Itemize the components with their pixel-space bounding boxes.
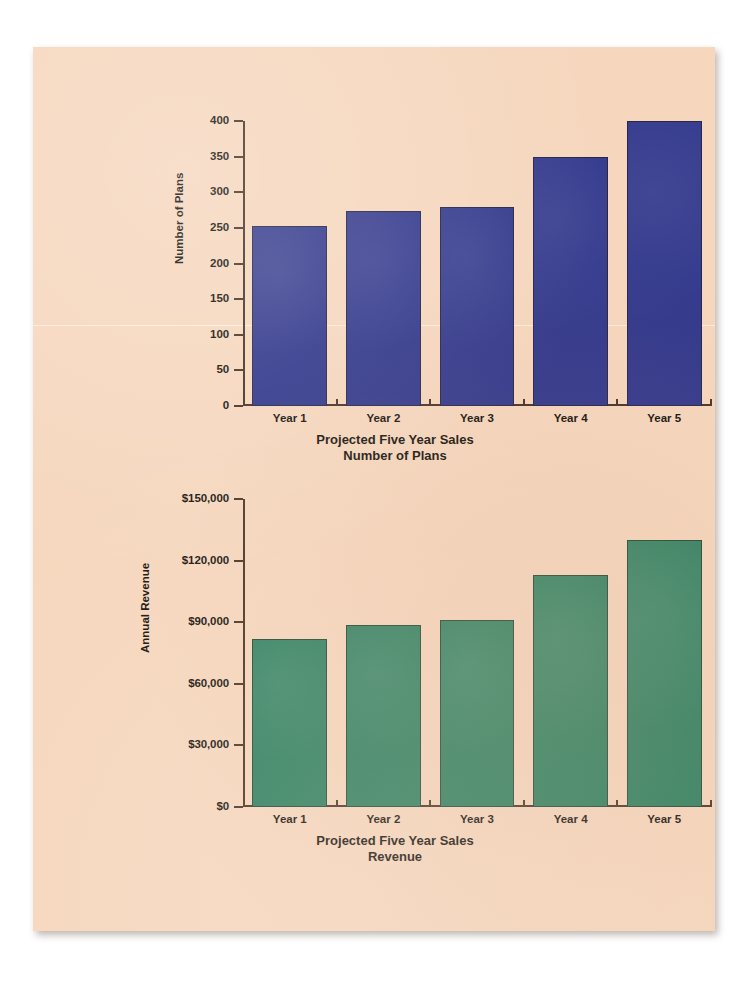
x-axis-tick xyxy=(336,399,338,406)
y-axis-tick-label: 250 xyxy=(189,221,229,233)
y-axis-tick xyxy=(234,405,243,407)
chart-annual-revenue: Annual Revenue $0$30,000$60,000$90,000$1… xyxy=(95,487,695,915)
y-axis-tick-label: 300 xyxy=(189,185,229,197)
y-axis-tick-label: $120,000 xyxy=(151,554,229,566)
y-axis-tick-label: $60,000 xyxy=(151,677,229,689)
x-axis-category-label: Year 4 xyxy=(524,813,618,825)
x-axis-tick xyxy=(616,399,618,406)
screenshot-root: Number of Plans 050100150200250300350400… xyxy=(0,0,753,983)
plot-area-number-of-plans: 050100150200250300350400Year 1Year 2Year… xyxy=(243,121,711,406)
y-axis-tick xyxy=(234,806,243,808)
x-axis-tick xyxy=(429,399,431,406)
x-axis-category-label: Year 3 xyxy=(430,813,524,825)
x-axis-tick xyxy=(616,800,618,807)
y-axis-tick xyxy=(234,498,243,500)
y-axis-tick xyxy=(234,120,243,122)
y-axis-tick-label: 400 xyxy=(189,114,229,126)
bar-year-1 xyxy=(252,226,327,406)
y-axis-line xyxy=(243,499,245,807)
x-axis-category-label: Year 5 xyxy=(617,412,711,424)
x-axis-tick xyxy=(710,800,712,807)
x-axis-category-label: Year 1 xyxy=(243,813,337,825)
bar-year-5 xyxy=(627,121,702,406)
bar-year-3 xyxy=(440,207,515,407)
y-axis-tick xyxy=(234,191,243,193)
bar-year-1 xyxy=(252,639,327,807)
y-axis-tick-label: 350 xyxy=(189,150,229,162)
x-axis-tick xyxy=(336,800,338,807)
y-axis-line xyxy=(243,121,245,406)
y-axis-tick-label: $150,000 xyxy=(151,492,229,504)
x-axis-category-label: Year 3 xyxy=(430,412,524,424)
chart-title-line-1: Projected Five Year Sales xyxy=(95,432,695,448)
x-axis-category-label: Year 4 xyxy=(524,412,618,424)
y-axis-tick-label: 200 xyxy=(189,257,229,269)
chart-title-line-1: Projected Five Year Sales xyxy=(95,833,695,849)
x-axis-category-label: Year 1 xyxy=(243,412,337,424)
y-axis-tick-label: $30,000 xyxy=(151,738,229,750)
y-axis-tick xyxy=(234,744,243,746)
y-axis-tick xyxy=(234,227,243,229)
bar-year-5 xyxy=(627,540,702,807)
y-axis-tick xyxy=(234,369,243,371)
bar-year-4 xyxy=(533,575,608,807)
y-axis-tick-label: 0 xyxy=(189,399,229,411)
chart-title-line-2: Revenue xyxy=(95,849,695,865)
y-axis-tick-label: 100 xyxy=(189,328,229,340)
y-axis-tick xyxy=(234,334,243,336)
scanned-document-page: Number of Plans 050100150200250300350400… xyxy=(33,47,715,931)
y-axis-tick-label: 50 xyxy=(189,363,229,375)
y-axis-tick-label: $0 xyxy=(151,800,229,812)
y-axis-tick xyxy=(234,263,243,265)
y-axis-tick-label: 150 xyxy=(189,292,229,304)
y-axis-tick xyxy=(234,621,243,623)
x-axis-category-label: Year 2 xyxy=(337,412,431,424)
y-axis-tick xyxy=(234,298,243,300)
bar-year-2 xyxy=(346,211,421,406)
y-axis-tick xyxy=(234,156,243,158)
y-axis-tick-label: $90,000 xyxy=(151,615,229,627)
bar-year-2 xyxy=(346,625,421,807)
y-axis-tick xyxy=(234,560,243,562)
bar-year-3 xyxy=(440,620,515,807)
bar-year-4 xyxy=(533,157,608,406)
x-axis-category-label: Year 2 xyxy=(337,813,431,825)
chart-number-of-plans: Number of Plans 050100150200250300350400… xyxy=(95,105,695,517)
chart-title-line-2: Number of Plans xyxy=(95,448,695,464)
plot-area-annual-revenue: $0$30,000$60,000$90,000$120,000$150,000Y… xyxy=(243,499,711,807)
x-axis-category-label: Year 5 xyxy=(617,813,711,825)
x-axis-tick xyxy=(523,800,525,807)
y-axis-tick xyxy=(234,683,243,685)
x-axis-tick xyxy=(523,399,525,406)
x-axis-tick xyxy=(710,399,712,406)
x-axis-tick xyxy=(429,800,431,807)
